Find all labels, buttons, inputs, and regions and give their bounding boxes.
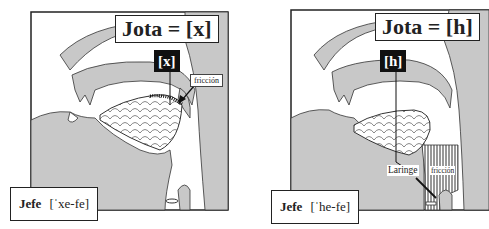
panel-jota-h: Jota = [h] [h] Laringe fricción Jefe[ˈhe…: [244, 0, 489, 229]
friction-label: fricción: [430, 166, 455, 175]
example-word: Jefe: [19, 196, 41, 211]
sound-symbol: [x]: [154, 50, 180, 72]
epiglottis: [178, 185, 190, 210]
friction-label: fricción: [190, 74, 223, 87]
panel-title: Jota = [h]: [375, 13, 480, 41]
panel-title: Jota = [x]: [115, 15, 219, 43]
transcription: [ˈhe-fe]: [310, 199, 350, 214]
example-word: Jefe: [280, 199, 302, 214]
example-word-box: Jefe[ˈhe-fe]: [271, 190, 359, 224]
panel-jota-x: Jota = [x] [x] fricción Jefe[ˈxe-fe]: [0, 0, 245, 229]
transcription: [ˈxe-fe]: [49, 196, 89, 211]
example-word-box: Jefe[ˈxe-fe]: [10, 187, 98, 221]
larynx-label: Laringe: [387, 165, 419, 176]
epiglottis: [439, 190, 452, 210]
sound-symbol: [h]: [380, 50, 406, 72]
vocal-cords: [426, 202, 436, 205]
vocal-cords: [166, 199, 178, 203]
